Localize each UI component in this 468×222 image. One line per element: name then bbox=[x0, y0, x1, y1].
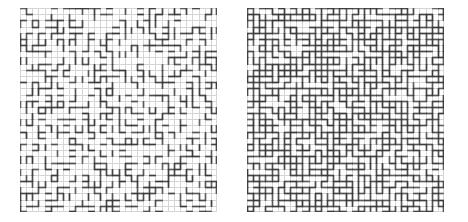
percolation-panel-dense bbox=[247, 8, 444, 212]
percolation-figure bbox=[0, 0, 468, 222]
percolation-panel-sparse bbox=[20, 8, 217, 212]
